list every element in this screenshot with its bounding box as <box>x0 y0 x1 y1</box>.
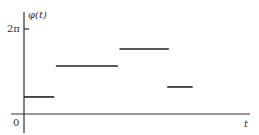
x-axis-label: t <box>244 118 249 129</box>
origin-label: 0 <box>13 117 19 128</box>
y-tick-label-2pi: 2π <box>7 23 20 34</box>
segments-group <box>24 49 193 97</box>
phase-chart: φ(t) 2π 0 t <box>0 0 259 135</box>
y-axis-label: φ(t) <box>28 9 47 20</box>
